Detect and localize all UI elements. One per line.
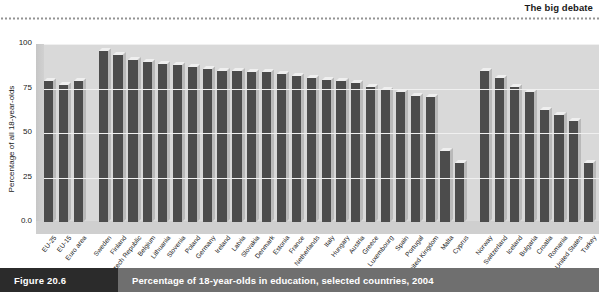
bar-poland — [188, 67, 197, 222]
bar-netherlands — [307, 78, 316, 222]
bar-romania — [554, 115, 563, 222]
bar-side-face — [256, 69, 259, 222]
bar-side-face — [405, 89, 408, 222]
bar-front-face — [381, 90, 390, 222]
bar-side-face — [504, 75, 507, 222]
y-axis-tick: 0.0 — [21, 216, 32, 225]
gridline — [44, 89, 599, 90]
bar-bulgaria — [525, 92, 534, 222]
bar-front-face — [99, 51, 108, 222]
bar-side-face — [108, 48, 111, 222]
bar-side-face — [227, 68, 230, 222]
bar-united-kingdom — [426, 97, 435, 222]
bar-turkey — [584, 163, 593, 222]
bar-side-face — [271, 69, 274, 222]
bar-side-face — [68, 82, 71, 222]
bar-top-face — [411, 93, 423, 96]
bar-lithuania — [158, 64, 167, 222]
bar-side-face — [138, 57, 141, 222]
bar-latvia — [232, 71, 241, 222]
bar-front-face — [247, 72, 256, 222]
bar-portugal — [411, 96, 420, 222]
bar-austria — [351, 83, 360, 222]
y-axis-tick: 50 — [23, 127, 32, 136]
bar-front-face — [307, 78, 316, 222]
figure-number: Figure 20.6 — [0, 268, 118, 292]
bar-malta — [440, 151, 449, 222]
bar-denmark — [262, 72, 271, 222]
bar-spain — [396, 92, 405, 222]
bar-side-face — [375, 84, 378, 222]
bar-side-face — [549, 107, 552, 222]
bar-side-face — [420, 93, 423, 222]
bar-side-face — [464, 160, 467, 222]
bar-side-face — [286, 71, 289, 222]
bar-side-face — [316, 75, 319, 222]
bar-ireland — [217, 71, 226, 222]
bar-front-face — [158, 64, 167, 222]
figure-chart-area: Percentage of all 18-year-olds 0.0255075… — [0, 28, 599, 264]
bar-euro-area — [74, 81, 83, 222]
bar-front-face — [480, 71, 489, 222]
bar-belgium — [143, 62, 152, 222]
y-axis-tick: 75 — [23, 82, 32, 91]
bar-greece — [366, 87, 375, 222]
bar-side-face — [489, 68, 492, 222]
page-header: The big debate — [0, 0, 599, 24]
bar-front-face — [217, 71, 226, 222]
bar-cyprus — [455, 163, 464, 222]
bar-side-face — [53, 78, 56, 222]
bar-united-states — [569, 121, 578, 222]
figure-caption: Figure 20.6 Percentage of 18-year-olds i… — [0, 268, 599, 292]
bar-side-face — [182, 62, 185, 222]
bar-front-face — [277, 74, 286, 222]
bar-side-face — [242, 68, 245, 222]
bar-front-face — [426, 97, 435, 222]
bar-front-face — [411, 96, 420, 222]
bar-eu-25 — [44, 81, 53, 222]
bar-estonia — [277, 74, 286, 222]
header-dotted-rule — [0, 17, 599, 20]
bar-side-face — [390, 87, 393, 222]
bar-front-face — [44, 81, 53, 222]
gridline — [44, 178, 599, 179]
bar-switzerland — [495, 78, 504, 222]
y-axis-tick: 100 — [19, 38, 32, 47]
bar-front-face — [113, 55, 122, 222]
panel-floor — [36, 221, 599, 234]
bar-iceland — [510, 87, 519, 222]
bar-front-face — [495, 78, 504, 222]
x-axis-tick-label: Sweden — [92, 234, 112, 257]
x-axis-tick-label: Italy — [322, 234, 335, 248]
bar-side-face — [331, 77, 334, 222]
bar-norway — [480, 71, 489, 222]
bar-front-face — [540, 110, 549, 222]
bar-front-face — [336, 81, 345, 222]
y-axis-tick: 25 — [23, 171, 32, 180]
bar-side-face — [346, 78, 349, 222]
bar-france — [292, 76, 301, 222]
bar-sweden — [99, 51, 108, 222]
bar-side-face — [152, 59, 155, 222]
y-axis: Percentage of all 18-year-olds 0.0255075… — [0, 44, 36, 234]
running-head: The big debate — [525, 2, 593, 13]
bar-front-face — [128, 60, 137, 222]
y-axis-label: Percentage of all 18-year-olds — [7, 64, 16, 214]
bar-front-face — [440, 151, 449, 222]
bar-croatia — [540, 110, 549, 222]
bar-front-face — [292, 76, 301, 222]
bar-czech-republic — [128, 60, 137, 222]
bar-front-face — [262, 72, 271, 222]
bar-front-face — [59, 85, 68, 222]
bar-side-face — [83, 78, 86, 222]
bar-front-face — [322, 80, 331, 222]
bar-side-face — [519, 84, 522, 222]
bar-side-face — [123, 52, 126, 222]
bar-front-face — [74, 81, 83, 222]
bar-hungary — [336, 81, 345, 222]
bar-side-face — [564, 112, 567, 222]
bar-front-face — [366, 87, 375, 222]
bar-side-face — [534, 89, 537, 222]
bar-front-face — [143, 62, 152, 222]
bar-front-face — [203, 69, 212, 222]
